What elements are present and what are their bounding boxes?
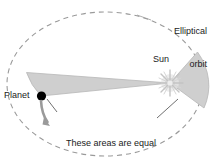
equal-areas-caption: These areas are equal if the time interv…	[52, 113, 170, 165]
left-swept-area-wedge	[27, 73, 171, 97]
elliptical-orbit-label-line2: orbit	[174, 59, 207, 70]
caption-leader-line-left	[47, 99, 57, 112]
orbit-diagram-figure: Elliptical orbit Sun Planet These areas …	[0, 0, 211, 165]
elliptical-orbit-label: Elliptical orbit	[174, 4, 207, 92]
sun-label: Sun	[153, 54, 169, 65]
orbit-label-leader-line	[137, 15, 151, 20]
planet-dot	[37, 91, 46, 100]
equal-areas-caption-line1: These areas are equal	[52, 137, 170, 149]
orbit-motion-arrow	[41, 101, 50, 126]
elliptical-orbit-label-line1: Elliptical	[174, 26, 207, 37]
planet-label: Planet	[4, 90, 30, 101]
